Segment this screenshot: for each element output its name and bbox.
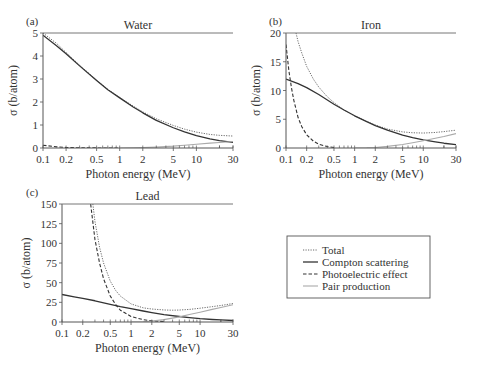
x-tick-label: 30 [451,153,463,165]
y-tick-label: 5 [276,113,282,125]
y-tick-label: 125 [41,218,58,230]
series-total [93,204,233,310]
y-tick-label: 75 [46,257,58,269]
x-tick-label: 0.2 [76,327,90,339]
legend: Total Compton scattering Photoelectric e… [287,236,430,298]
x-tick-label: 0.5 [90,153,104,165]
x-tick-label: 0.1 [279,153,293,165]
x-tick-label: 10 [195,327,207,339]
chart-panel-iron: 051015200.10.20.51251030Photon energy (M… [249,15,462,181]
x-tick-label: 2 [373,153,379,165]
panel-title: Lead [136,189,160,203]
x-tick-label: 0.5 [327,153,341,165]
y-tick-label: 4 [33,50,39,62]
panel-title: Iron [361,18,381,32]
x-axis-title: Photon energy (MeV) [95,341,200,355]
x-tick-label: 0.5 [103,327,117,339]
x-tick-label: 10 [418,153,430,165]
chart-panel-lead: 02550751001251500.10.20.51251030Photon e… [19,186,239,355]
y-tick-label: 50 [46,277,58,289]
y-tick-label: 25 [46,296,58,308]
panel-letter: (a) [26,15,39,28]
figure: 0123450.10.20.51251030Photon energy (MeV… [0,0,481,368]
series-group [43,33,233,148]
x-tick-label: 1 [352,153,358,165]
x-tick-label: 1 [128,327,134,339]
legend-label: Total [322,244,344,256]
x-tick-label: 5 [400,153,406,165]
legend-label: Photoelectric effect [322,268,408,280]
x-tick-label: 0.2 [59,153,73,165]
x-tick-label: 2 [140,153,146,165]
x-tick-label: 5 [177,327,183,339]
series-pair [120,142,233,148]
x-tick-label: 30 [228,153,240,165]
series-compton [43,35,233,142]
y-axis-title: σ (b/atom) [249,65,263,116]
legend-label: Compton scattering [322,256,409,268]
y-tick-label: 2 [33,96,39,108]
y-tick-label: 15 [270,56,282,68]
x-tick-label: 0.1 [36,153,50,165]
x-tick-label: 5 [171,153,177,165]
y-tick-label: 5 [33,27,39,39]
x-tick-label: 10 [191,153,203,165]
y-tick-label: 100 [41,237,58,249]
series-total [43,33,233,136]
x-tick-label: 1 [117,153,123,165]
x-tick-label: 0.2 [300,153,314,165]
y-tick-label: 3 [33,73,39,85]
series-total [296,33,456,133]
x-tick-label: 30 [228,327,240,339]
series-photo [91,204,164,322]
x-tick-label: 0.1 [55,327,69,339]
y-axis-title: σ (b/atom) [19,238,33,289]
y-axis-title: σ (b/atom) [6,65,20,116]
legend-label: Pair production [322,280,391,292]
series-group [286,33,456,148]
chart-panel-water: 0123450.10.20.51251030Photon energy (MeV… [6,15,239,181]
panel-letter: (c) [26,186,39,199]
y-tick-label: 1 [33,119,39,131]
x-axis-title: Photon energy (MeV) [85,167,190,181]
series-group [62,204,233,322]
x-axis-title: Photon energy (MeV) [318,167,423,181]
x-tick-label: 2 [149,327,155,339]
y-tick-label: 10 [270,85,282,97]
panel-letter: (b) [269,15,282,28]
y-tick-label: 20 [270,27,282,39]
panel-title: Water [124,18,152,32]
series-compton [286,79,456,145]
y-tick-label: 150 [41,198,58,210]
